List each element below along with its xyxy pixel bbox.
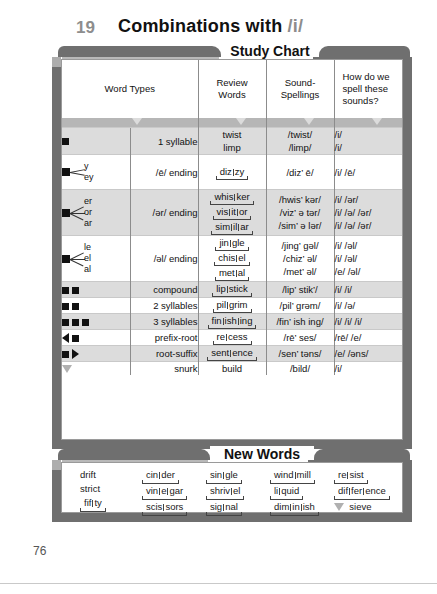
- syllable-divider: [236, 270, 237, 277]
- row-symbol-cell: [62, 330, 130, 346]
- how-spell-line1: How do we: [343, 71, 403, 83]
- syllable-divider: [159, 488, 160, 495]
- row-review-words: recess: [198, 330, 266, 346]
- divided-word: lipstick: [212, 282, 252, 297]
- word-underline: [206, 512, 242, 516]
- square-icon: [62, 168, 70, 176]
- new-word-item: windmill: [270, 468, 334, 484]
- new-word-item: sieve: [334, 500, 398, 514]
- branch-label: or: [84, 207, 92, 217]
- column-header-review-words: Review Words: [198, 60, 266, 118]
- triangle-right-icon: [72, 349, 79, 359]
- new-words-edge-right: [403, 460, 412, 522]
- word: limp: [223, 142, 240, 153]
- word-underline: [334, 496, 390, 500]
- new-words-column: resistdifference sieve: [334, 468, 398, 516]
- row-symbol-cell: yey: [62, 155, 130, 190]
- branch-line: [70, 172, 85, 176]
- word-underline: [213, 309, 252, 313]
- row-spell-answer: /i/ /ər//i/ /ə/ /ər//i/ /ə/ /ər/: [334, 190, 402, 236]
- row-spell-answer: /rē/ /e/: [334, 330, 402, 346]
- branch-label: al: [84, 264, 91, 274]
- syllable-divider: [237, 209, 238, 216]
- new-word-item: diminish: [270, 500, 334, 516]
- row-review-words: dizzy: [198, 155, 266, 190]
- row-spell-answer: /i//i/: [334, 128, 402, 155]
- divided-word: windmill: [270, 468, 315, 484]
- branch-label: ar: [84, 218, 92, 228]
- syllable-divider: [227, 302, 228, 309]
- row-spell-answer: /e/ /əns/: [334, 346, 402, 362]
- new-word-item: signal: [206, 500, 270, 516]
- syllable-divider: [163, 504, 164, 511]
- row-spell-answer: /i/ /i/: [334, 282, 402, 298]
- row-review-words: twistlimp: [198, 128, 266, 155]
- row-review-words: lipstick: [198, 282, 266, 298]
- divided-word: fifty: [80, 496, 106, 512]
- page-title: Combinations with /i/: [118, 16, 303, 37]
- branch-label: le: [84, 242, 91, 252]
- new-words-column: cindervinegarscissors: [142, 468, 206, 516]
- word-underline: [212, 293, 252, 297]
- page-header: 19 Combinations with /i/: [0, 16, 437, 42]
- syllable-divider: [226, 334, 227, 341]
- word-underline: [207, 357, 257, 361]
- syllable-divider: [301, 504, 302, 511]
- syllable-divider: [223, 504, 224, 511]
- table-row: root-suffixsentence/sen’ təns//e/ /əns/: [62, 346, 402, 362]
- table-row: compoundlipstick/lip’ stik’//i/ /i/: [62, 282, 402, 298]
- row-sound-spellings: /bild/: [266, 362, 334, 376]
- row-sound-spellings: /rē’ ses/: [266, 330, 334, 346]
- divided-word: liquid: [270, 484, 303, 500]
- branch-diagram-icon: yey: [62, 155, 118, 189]
- row-symbol-cell: [62, 128, 130, 155]
- syllable-divider: [363, 488, 364, 495]
- word: drift: [80, 469, 96, 480]
- table-row: prefix-rootrecess/rē’ ses//rē/ /e/: [62, 330, 402, 346]
- header-row: Word Types Review Words Sound- Spellings…: [62, 60, 402, 118]
- how-spell-line3: sounds?: [343, 95, 403, 107]
- syllable-divider: [92, 500, 93, 507]
- header-divider-band: [62, 118, 402, 128]
- branch-diagram-icon: leelal: [62, 242, 118, 276]
- new-words-column: singleshrivelsignal: [206, 468, 270, 516]
- syllable-divider: [227, 286, 228, 293]
- row-word-type: 2 syllables: [130, 298, 198, 314]
- row-review-words: jinglechiselmetal: [198, 236, 266, 282]
- band-triangle-icon: [304, 118, 314, 125]
- new-words-frame: driftstrictfiftycindervinegarscissorssin…: [52, 460, 412, 522]
- new-word-item: vinegar: [142, 484, 206, 500]
- square-icon: [72, 319, 79, 326]
- square-icon: [62, 303, 69, 310]
- divided-word: vinegar: [142, 484, 187, 500]
- new-word-item: difference: [334, 484, 398, 500]
- syllable-divider: [230, 350, 231, 357]
- row-spell-answer: /i/: [334, 362, 402, 376]
- square-icon: [62, 351, 69, 358]
- new-words-bar-right: [314, 449, 410, 460]
- study-chart-table-wrap: Word Types Review Words Sound- Spellings…: [61, 59, 403, 440]
- square-icon: [62, 287, 69, 294]
- syllable-divider: [349, 488, 350, 495]
- table-row: leelal/əl/ endingjinglechiselmetal/jing’…: [62, 236, 402, 282]
- new-words-bar-left: [58, 449, 210, 460]
- word-underline: [211, 231, 252, 235]
- word-underline: [142, 512, 187, 516]
- divided-word: scissors: [142, 500, 187, 516]
- table-row: 2 syllablespilgrim/pil’ grəm//i/ /ə/: [62, 298, 402, 314]
- new-word-item: drift: [80, 468, 142, 482]
- word: build: [222, 363, 242, 374]
- row-spell-answer: /i/ /ə/: [334, 298, 402, 314]
- branch-line: [70, 213, 84, 220]
- row-review-words: pilgrim: [198, 298, 266, 314]
- row-word-type: snurk: [130, 362, 198, 376]
- new-words-box: driftstrictfiftycindervinegarscissorssin…: [61, 462, 403, 513]
- branch-label: el: [84, 253, 91, 263]
- word-underline: [213, 341, 252, 345]
- band-triangle-icon: [372, 118, 382, 125]
- divided-word: similar: [211, 220, 252, 235]
- row-symbol-cell: erorar: [62, 190, 130, 236]
- row-sound-spellings: /sen’ təns/: [266, 346, 334, 362]
- syllable-divider: [233, 169, 234, 176]
- new-word-item: shrivel: [206, 484, 270, 500]
